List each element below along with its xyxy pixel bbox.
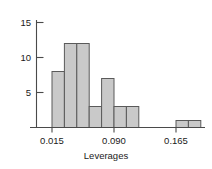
y-tick-label: 5 [26,87,31,98]
x-tick-label: 0.090 [102,135,126,146]
histogram-bar [188,121,200,128]
x-axis-title: Leverages [84,150,129,161]
x-tick-label: 0.165 [164,135,188,146]
histogram-bar [77,44,89,128]
histogram-chart: 51015 0.0150.0900.165 Leverages [0,0,212,169]
bars-group [52,44,201,128]
histogram-bar [114,107,126,128]
y-tick-label: 10 [20,52,31,63]
x-axis-ticks: 0.0150.0900.165 [40,128,188,146]
histogram-bar [126,107,138,128]
histogram-bar [176,121,188,128]
histogram-bar [52,72,64,128]
histogram-bar [89,107,101,128]
chart-canvas: 51015 0.0150.0900.165 Leverages [0,0,212,169]
x-tick-label: 0.015 [40,135,64,146]
y-tick-label: 15 [20,17,31,28]
histogram-bar [64,44,76,128]
y-axis-ticks: 51015 [20,17,43,98]
histogram-bar [102,79,114,128]
